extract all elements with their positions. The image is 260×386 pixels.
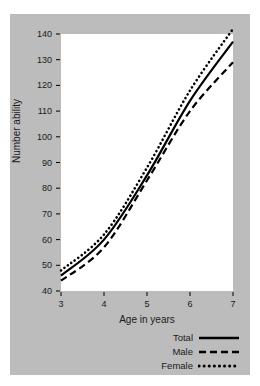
figure: 405060708090100110120130140 34567 Number… (0, 0, 260, 386)
y-tick-label: 70 (20, 209, 52, 218)
y-tick-label: 50 (20, 261, 52, 270)
y-tick-label: 140 (20, 30, 52, 39)
series-line-female (61, 29, 233, 271)
legend-item-male: Male (140, 345, 240, 359)
axis-ticks (56, 34, 233, 296)
legend-item-female: Female (140, 359, 240, 373)
legend-label: Male (172, 347, 193, 357)
y-tick-label: 40 (20, 287, 52, 296)
y-axis-title: Number ability (12, 99, 22, 163)
legend-label: Total (173, 333, 193, 343)
legend-line-sample (198, 361, 240, 371)
legend-line-sample (198, 333, 240, 343)
x-tick-label: 3 (58, 300, 63, 309)
y-tick-label: 80 (20, 184, 52, 193)
y-tick-label: 100 (20, 132, 52, 141)
y-tick-label: 60 (20, 235, 52, 244)
y-tick-label: 90 (20, 158, 52, 167)
x-tick-label: 4 (101, 300, 106, 309)
x-axis-title: Age in years (61, 315, 233, 325)
x-tick-label: 6 (187, 300, 192, 309)
legend-line-sample (198, 347, 240, 357)
y-tick-label: 130 (20, 55, 52, 64)
y-tick-label: 120 (20, 81, 52, 90)
y-tick-label: 110 (20, 107, 52, 116)
series-line-total (61, 42, 233, 276)
legend-item-total: Total (140, 331, 240, 345)
legend-label: Female (161, 361, 193, 371)
x-tick-label: 5 (144, 300, 149, 309)
series-line-male (61, 62, 233, 280)
chart-legend: TotalMaleFemale (140, 331, 240, 373)
x-tick-label: 7 (230, 300, 235, 309)
data-series (61, 29, 233, 281)
